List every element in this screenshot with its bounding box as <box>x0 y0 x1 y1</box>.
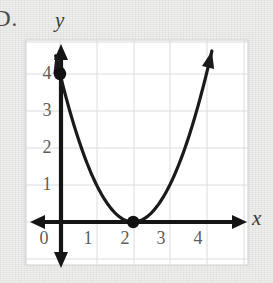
x-tick-label-3: 3 <box>152 228 170 249</box>
y-tick-label-4: 4 <box>38 63 56 84</box>
y-tick-label-3: 3 <box>38 100 56 121</box>
point-vertex <box>127 216 139 228</box>
x-axis-label: x <box>252 206 261 231</box>
y-tick-label-2: 2 <box>38 137 56 158</box>
y-axis-label: y <box>55 8 64 33</box>
x-tick-label-2: 2 <box>116 228 134 249</box>
x-tick-label-4: 4 <box>189 228 207 249</box>
problem-item-letter: D. <box>0 6 18 32</box>
y-tick-label-1: 1 <box>38 174 56 195</box>
x-tick-label-0: 0 <box>35 228 53 249</box>
x-tick-label-1: 1 <box>79 228 97 249</box>
